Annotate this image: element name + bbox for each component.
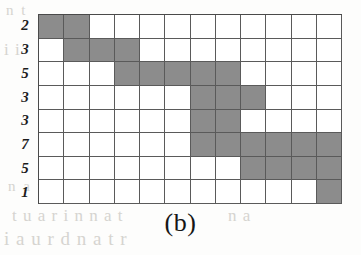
grid-cell-empty bbox=[140, 110, 165, 134]
grid-cell-empty bbox=[39, 39, 64, 63]
row-label: 7 bbox=[14, 133, 36, 157]
grid-cell-filled bbox=[216, 133, 241, 157]
row-label: 5 bbox=[14, 157, 36, 181]
grid-cell-empty bbox=[39, 157, 64, 181]
grid-cell-filled bbox=[191, 110, 216, 134]
grid-matrix bbox=[38, 14, 342, 204]
grid-cell-empty bbox=[90, 180, 115, 204]
grid-cell-empty bbox=[90, 110, 115, 134]
grid-cell-empty bbox=[115, 15, 140, 39]
grid-cell-empty bbox=[140, 39, 165, 63]
row-label: 1 bbox=[14, 180, 36, 204]
row-label: 2 bbox=[14, 14, 36, 38]
row-label: 3 bbox=[14, 85, 36, 109]
grid-cell-empty bbox=[140, 15, 165, 39]
grid-cell-empty bbox=[241, 62, 266, 86]
figure-caption: (b) bbox=[0, 208, 361, 238]
grid-cell-filled bbox=[115, 39, 140, 63]
grid-cell-filled bbox=[191, 86, 216, 110]
grid-cell-filled bbox=[292, 157, 317, 181]
grid-cell-empty bbox=[165, 157, 190, 181]
grid-cell-empty bbox=[191, 157, 216, 181]
grid-cell-filled bbox=[317, 157, 342, 181]
grid-cell-empty bbox=[241, 15, 266, 39]
grid-cell-empty bbox=[292, 86, 317, 110]
grid-cell-empty bbox=[216, 157, 241, 181]
grid-cell-filled bbox=[292, 133, 317, 157]
grid-cell-empty bbox=[140, 180, 165, 204]
grid-cell-empty bbox=[317, 15, 342, 39]
grid-cell-filled bbox=[64, 39, 89, 63]
grid-cell-empty bbox=[140, 133, 165, 157]
grid-cell-empty bbox=[317, 110, 342, 134]
grid-cell-filled bbox=[216, 110, 241, 134]
figure-plate: 23533751 (b) bbox=[0, 0, 361, 255]
grid-cell-empty bbox=[216, 180, 241, 204]
grid-cell-empty bbox=[90, 15, 115, 39]
row-label: 3 bbox=[14, 109, 36, 133]
grid-cell-empty bbox=[39, 133, 64, 157]
grid-cell-empty bbox=[266, 62, 291, 86]
grid-cell-empty bbox=[90, 157, 115, 181]
grid-cell-filled bbox=[266, 133, 291, 157]
grid-cell-empty bbox=[165, 15, 190, 39]
grid-cell-empty bbox=[64, 86, 89, 110]
grid-cell-empty bbox=[165, 180, 190, 204]
grid-cell-filled bbox=[317, 180, 342, 204]
grid-cell-empty bbox=[241, 180, 266, 204]
grid-cell-empty bbox=[39, 62, 64, 86]
grid-cell-empty bbox=[165, 39, 190, 63]
grid-cell-empty bbox=[140, 157, 165, 181]
grid-cell-empty bbox=[39, 180, 64, 204]
grid-cell-empty bbox=[216, 39, 241, 63]
grid-cell-empty bbox=[64, 133, 89, 157]
grid-cell-empty bbox=[317, 86, 342, 110]
grid-cell-empty bbox=[191, 15, 216, 39]
grid-cell-empty bbox=[64, 62, 89, 86]
grid-cell-empty bbox=[266, 15, 291, 39]
grid-cell-filled bbox=[241, 133, 266, 157]
grid-cell-empty bbox=[266, 39, 291, 63]
grid-cell-empty bbox=[191, 180, 216, 204]
grid-cell-empty bbox=[292, 180, 317, 204]
grid-cell-empty bbox=[64, 157, 89, 181]
grid-cell-filled bbox=[39, 15, 64, 39]
grid-cell-empty bbox=[90, 62, 115, 86]
grid-cell-empty bbox=[115, 133, 140, 157]
grid-cell-empty bbox=[216, 15, 241, 39]
grid-cell-filled bbox=[90, 39, 115, 63]
grid-cell-empty bbox=[90, 133, 115, 157]
grid-cell-empty bbox=[317, 39, 342, 63]
grid-cell-empty bbox=[165, 110, 190, 134]
row-label-axis: 23533751 bbox=[14, 14, 36, 204]
grid-cell-empty bbox=[115, 86, 140, 110]
grid-cell-empty bbox=[292, 39, 317, 63]
grid-cell-filled bbox=[64, 15, 89, 39]
grid-cell-empty bbox=[266, 110, 291, 134]
grid-cell-filled bbox=[216, 86, 241, 110]
grid-cell-filled bbox=[115, 62, 140, 86]
grid-cell-filled bbox=[140, 62, 165, 86]
row-label: 5 bbox=[14, 62, 36, 86]
grid-cell-empty bbox=[90, 86, 115, 110]
grid-cell-empty bbox=[115, 157, 140, 181]
grid-cell-filled bbox=[165, 62, 190, 86]
grid-cell-empty bbox=[39, 86, 64, 110]
grid-cell-empty bbox=[165, 86, 190, 110]
grid-cell-empty bbox=[266, 180, 291, 204]
row-label: 3 bbox=[14, 38, 36, 62]
grid-cell-empty bbox=[115, 180, 140, 204]
grid-cell-empty bbox=[266, 86, 291, 110]
grid-cell-filled bbox=[241, 86, 266, 110]
grid-cell-empty bbox=[292, 62, 317, 86]
grid-cell-empty bbox=[64, 110, 89, 134]
grid-cell-empty bbox=[292, 15, 317, 39]
grid-cell-empty bbox=[140, 86, 165, 110]
grid-cell-filled bbox=[266, 157, 291, 181]
grid-cell-empty bbox=[292, 110, 317, 134]
grid-cell-empty bbox=[39, 110, 64, 134]
grid-cell-filled bbox=[317, 133, 342, 157]
grid-cell-empty bbox=[241, 39, 266, 63]
grid-cell-empty bbox=[191, 39, 216, 63]
grid-cell-empty bbox=[317, 62, 342, 86]
